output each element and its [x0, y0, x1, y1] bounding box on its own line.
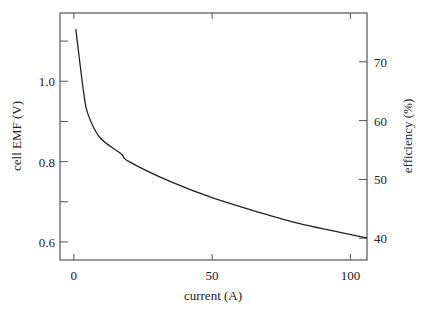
x-tick-label: 100: [341, 268, 361, 283]
y-right-tick-label: 40: [374, 231, 387, 246]
y-tick-label: 0.8: [39, 155, 55, 170]
y-right-tick-label: 70: [374, 55, 387, 70]
y-right-tick-label: 60: [374, 114, 387, 129]
y-right-tick-label: 50: [374, 172, 387, 187]
y-tick-label: 0.6: [39, 235, 56, 250]
plot-frame: [60, 13, 367, 260]
x-axis-ticks: 050100: [71, 13, 361, 283]
x-tick-label: 0: [71, 268, 78, 283]
y-right-axis-label: efficiency (%): [400, 99, 415, 173]
y-right-axis-ticks: 40506070: [359, 55, 387, 246]
y-axis-label: cell EMF (V): [9, 101, 24, 171]
x-tick-label: 50: [206, 268, 219, 283]
emf-curve: [76, 29, 367, 238]
x-axis-label: current (A): [184, 288, 242, 303]
y-tick-label: 1.0: [39, 74, 55, 89]
y-axis-ticks: 0.60.81.0: [39, 41, 68, 250]
chart: 050100 0.60.81.0 40506070 current (A) ce…: [0, 0, 424, 320]
